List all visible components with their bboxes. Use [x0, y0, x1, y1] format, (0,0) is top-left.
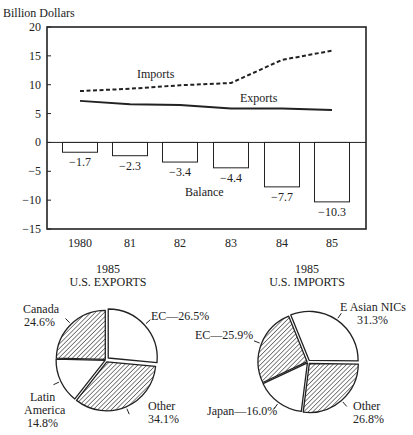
pie-slice-other: [303, 364, 358, 413]
balance-value-label: −1.7: [69, 155, 91, 169]
pie-slice-ec: [108, 309, 157, 363]
exports-pie-year: 1985: [96, 262, 120, 276]
exports-line: [80, 101, 332, 110]
y-axis-title: Billion Dollars: [3, 6, 75, 20]
imports-line: [80, 51, 332, 91]
y-tick-label: 0: [35, 135, 41, 149]
y-tick-label: −5: [28, 164, 41, 178]
balance-bar: [214, 142, 249, 167]
exp-other-label: Other: [148, 399, 175, 413]
trade-line-bar-chart: 20151050−5−10−1519808182838485−1.7−2.3−3…: [22, 20, 366, 250]
imp-nics-pct: 31.3%: [357, 313, 388, 327]
exp-other-pct: 34.1%: [148, 412, 179, 426]
pie-leader-line: [146, 320, 150, 324]
y-tick-label: −15: [22, 222, 41, 236]
x-tick-label: 1980: [68, 236, 92, 250]
imp-other-pct: 26.8%: [353, 412, 384, 426]
chart-canvas: Billion Dollars 20151050−5−10−1519808182…: [0, 0, 413, 435]
y-tick-label: 15: [29, 49, 41, 63]
imp-other-label: Other: [353, 399, 380, 413]
balance-value-label: −2.3: [119, 159, 141, 173]
y-tick-label: −10: [22, 193, 41, 207]
balance-bar: [163, 142, 198, 162]
exports-label: Exports: [240, 91, 278, 105]
pie-leader-line: [127, 409, 129, 415]
imports-pie: [254, 311, 358, 412]
pie-leader-line: [338, 313, 341, 318]
x-tick-label: 85: [326, 236, 338, 250]
balance-value-label: −7.7: [271, 190, 293, 204]
x-tick-label: 83: [225, 236, 237, 250]
pie-leader-line: [343, 402, 347, 407]
y-tick-label: 10: [29, 78, 41, 92]
x-tick-label: 82: [174, 236, 186, 250]
balance-value-label: −10.3: [318, 205, 346, 219]
balance-bar: [265, 142, 300, 186]
balance-value-label: −4.4: [220, 171, 242, 185]
exp-latam-label-2: America: [24, 403, 66, 417]
pie-leader-line: [54, 382, 59, 385]
imp-nics-label: E Asian NICs: [340, 300, 406, 314]
x-tick-label: 81: [124, 236, 136, 250]
imp-japan-label: Japan—16.0%: [207, 404, 277, 418]
x-tick-label: 84: [276, 236, 288, 250]
y-tick-label: 20: [29, 20, 41, 34]
imports-pie-year: 1985: [295, 262, 319, 276]
balance-bar: [315, 142, 350, 201]
pie-leader-line: [254, 341, 260, 343]
exports-pie: [54, 309, 158, 414]
balance-value-label: −3.4: [169, 165, 191, 179]
pie-slice-canada: [56, 310, 105, 359]
exp-latam-label: Latin: [30, 390, 55, 404]
imports-label: Imports: [137, 67, 175, 81]
exp-canada-pct: 24.6%: [24, 315, 55, 329]
imports-pie-title: U.S. IMPORTS: [269, 275, 345, 289]
imp-ec-label: EC—25.9%: [195, 328, 253, 342]
exp-ec-label: EC—26.5%: [151, 309, 209, 323]
pie-leader-line: [66, 318, 70, 322]
exp-latam-pct: 14.8%: [27, 416, 58, 430]
balance-bar: [113, 142, 148, 155]
exp-canada-label: Canada: [23, 302, 60, 316]
y-tick-label: 5: [35, 107, 41, 121]
balance-label: Balance: [185, 185, 224, 199]
balance-bar: [63, 142, 98, 152]
exports-pie-title: U.S. EXPORTS: [70, 275, 147, 289]
